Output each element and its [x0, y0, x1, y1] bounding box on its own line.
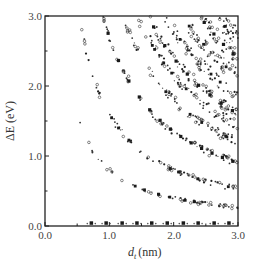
plot-frame: [45, 16, 238, 226]
scatter-chart: 0.0 1.0 2.0 3.0 0.0 1.0 2.0 3.0 dt(nm) Δ…: [0, 0, 257, 264]
y-axis-title: ΔE (eV): [3, 101, 17, 141]
x-tick-label: 1.0: [102, 229, 116, 241]
x-tick-label: 3.0: [231, 229, 245, 241]
y-tick-label: 1.0: [28, 150, 42, 162]
y-tick-label: 3.0: [28, 10, 42, 22]
y-tick-label: 2.0: [28, 80, 42, 92]
x-tick-label: 2.0: [167, 229, 181, 241]
data-points: [79, 15, 239, 224]
x-axis-title: dt(nm): [128, 245, 162, 261]
axis-ticks: [45, 16, 238, 226]
x-tick-label: 0.0: [38, 229, 52, 241]
